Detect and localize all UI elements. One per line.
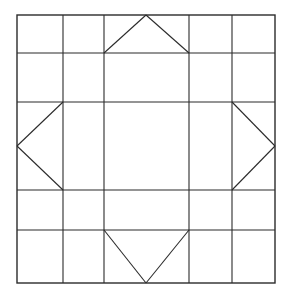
grid-diagram: [0, 0, 282, 297]
canvas-background: [0, 0, 282, 297]
diagram-canvas: [0, 0, 282, 297]
